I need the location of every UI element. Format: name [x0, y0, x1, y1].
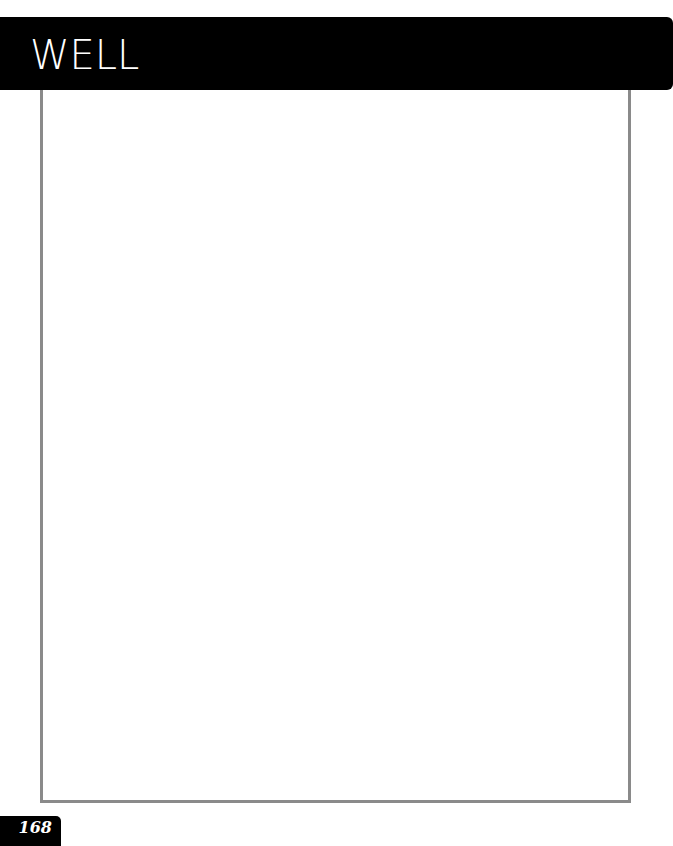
section-header-band: WELL — [0, 17, 673, 90]
section-title: WELL — [30, 33, 139, 77]
blank-writing-frame — [40, 90, 631, 803]
page-number-badge: 168 — [0, 816, 61, 846]
page-number: 168 — [19, 818, 52, 838]
